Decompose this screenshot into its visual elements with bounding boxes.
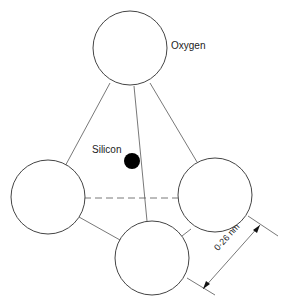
tetrahedron-diagram	[0, 0, 287, 307]
oxygen-label: Oxygen	[171, 40, 205, 51]
oxygen-atom-bottom	[115, 221, 189, 295]
edge-top-right	[150, 83, 197, 162]
edge-right-bottom	[182, 229, 191, 236]
silicon-atom	[124, 153, 140, 169]
edge-top-bottom	[134, 86, 147, 221]
edge-top-left	[63, 83, 110, 170]
silicon-label: Silicon	[92, 144, 121, 155]
edge-left-bottom	[79, 217, 120, 240]
oxygen-atom-right	[178, 158, 252, 232]
oxygen-atom-top	[93, 11, 167, 85]
oxygen-atom-left	[11, 160, 85, 234]
